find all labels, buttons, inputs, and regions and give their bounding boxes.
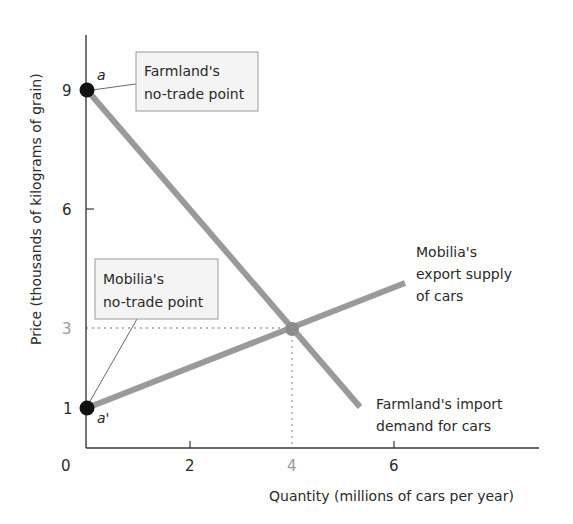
x-tick-label-0: 0	[61, 457, 71, 475]
point-a-label: a	[97, 67, 106, 83]
y-tick-label-3: 3	[62, 320, 72, 338]
farmland-box-line1: Farmland's	[144, 63, 220, 79]
y-tick-label-6: 6	[62, 201, 72, 219]
chart: 9 6 3 1 0 2 4 6 Quantity (millions of ca…	[0, 0, 573, 524]
farmland-leader-line	[92, 84, 136, 90]
mobilia-box-line2: no-trade point	[103, 294, 204, 310]
point-a-prime-label: a'	[97, 410, 109, 426]
x-tick-label-6: 6	[389, 457, 399, 475]
supply-label-line3: of cars	[416, 288, 463, 304]
y-tick-label-9: 9	[62, 82, 72, 100]
equilibrium-point	[285, 322, 299, 336]
farmland-no-trade-box	[136, 52, 258, 111]
farmland-box-line2: no-trade point	[144, 86, 245, 102]
supply-label-line2: export supply	[416, 266, 512, 282]
y-axis-title: Price (thousands of kilograms of grain)	[28, 73, 44, 345]
x-axis-title: Quantity (millions of cars per year)	[269, 488, 514, 504]
import-demand-curve	[87, 90, 360, 407]
point-a-prime	[80, 401, 95, 416]
x-tick-label-4: 4	[287, 457, 297, 475]
y-tick-label-1: 1	[63, 400, 73, 418]
x-tick-label-2: 2	[185, 457, 195, 475]
mobilia-no-trade-box	[95, 259, 218, 319]
supply-label-line1: Mobilia's	[416, 244, 477, 260]
demand-label-line2: demand for cars	[376, 418, 491, 434]
demand-label-line1: Farmland's import	[376, 396, 503, 412]
point-a	[80, 83, 95, 98]
mobilia-box-line1: Mobilia's	[103, 271, 164, 287]
